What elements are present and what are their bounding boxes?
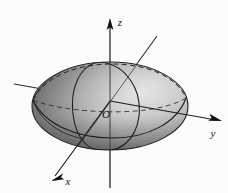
x-axis-arrowhead bbox=[51, 173, 64, 181]
y-axis-arrowhead bbox=[208, 114, 222, 121]
ellipsoid-figure: z y x O bbox=[0, 0, 228, 193]
y-axis-label: y bbox=[210, 127, 216, 139]
origin-label: O bbox=[102, 108, 110, 120]
ellipsoid-diagram-svg: z y x O bbox=[0, 0, 228, 193]
x-axis-label: x bbox=[65, 175, 71, 187]
z-axis-label: z bbox=[117, 16, 123, 28]
